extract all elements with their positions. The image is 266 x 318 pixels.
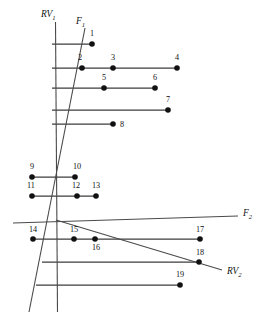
data-point-9[interactable]: [29, 174, 35, 180]
data-point-7[interactable]: [165, 107, 171, 113]
data-point-11[interactable]: [29, 193, 35, 199]
data-point-label-7: 7: [166, 95, 170, 104]
data-point-2[interactable]: [79, 65, 85, 71]
data-point-12[interactable]: [74, 193, 80, 199]
data-point-10[interactable]: [72, 174, 78, 180]
data-point-label-8: 8: [120, 120, 124, 129]
data-point-3[interactable]: [110, 65, 116, 71]
data-point-16[interactable]: [92, 236, 98, 242]
data-point-15[interactable]: [71, 236, 77, 242]
data-point-label-10: 10: [73, 162, 81, 171]
axes-group: [13, 22, 238, 312]
data-point-label-14: 14: [29, 225, 37, 234]
data-point-label-4: 4: [175, 53, 179, 62]
axis-rv2-label: RV2: [226, 266, 242, 278]
data-point-6[interactable]: [152, 85, 158, 91]
axis-rv1-label: RV1: [40, 9, 56, 21]
data-point-label-16: 16: [92, 243, 100, 252]
reaction-diagram-svg: 12345678910111213141516171819 RV1F1F2RV2: [0, 0, 266, 318]
data-point-label-3: 3: [111, 53, 115, 62]
data-point-label-11: 11: [27, 181, 35, 190]
data-point-label-6: 6: [153, 73, 157, 82]
data-point-14[interactable]: [30, 236, 36, 242]
data-point-19[interactable]: [177, 282, 183, 288]
data-point-label-13: 13: [92, 181, 100, 190]
data-point-label-2: 2: [78, 53, 82, 62]
axis-f1-label: F1: [75, 16, 85, 28]
data-point-label-18: 18: [196, 248, 204, 257]
data-point-5[interactable]: [101, 85, 107, 91]
data-point-label-15: 15: [70, 225, 78, 234]
data-point-17[interactable]: [197, 236, 203, 242]
data-point-label-19: 19: [176, 270, 184, 279]
diagram-canvas: 12345678910111213141516171819 RV1F1F2RV2: [0, 0, 266, 318]
node-dots-group: [29, 41, 203, 288]
data-point-label-1: 1: [90, 29, 94, 38]
data-point-18[interactable]: [196, 259, 202, 265]
data-point-1[interactable]: [89, 41, 95, 47]
data-point-label-17: 17: [196, 225, 204, 234]
data-point-label-9: 9: [30, 162, 34, 171]
data-point-8[interactable]: [110, 121, 116, 127]
data-point-4[interactable]: [174, 65, 180, 71]
axis-f2-label: F2: [242, 208, 253, 220]
data-point-label-5: 5: [102, 73, 106, 82]
data-point-label-12: 12: [72, 181, 80, 190]
data-point-13[interactable]: [93, 193, 99, 199]
